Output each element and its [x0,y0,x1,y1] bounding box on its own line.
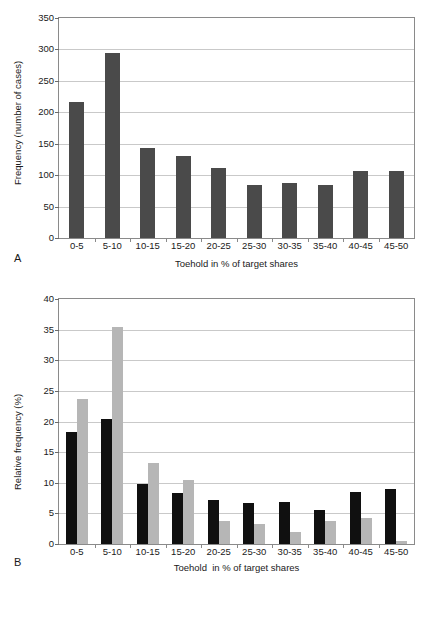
bar [314,510,325,544]
chart-b-plot-area: 05101520253035400-55-1010-1515-2020-2525… [58,298,415,545]
y-axis-tick-label: 300 [38,45,54,55]
x-axis-tick-mark [343,238,344,242]
bar [211,168,226,238]
chart-b-y-axis-title: Relative frequency (%) [12,394,23,490]
y-axis-tick-label: 200 [38,108,54,118]
y-axis-tick-label: 50 [43,202,54,212]
bar [112,327,123,544]
bar [148,463,159,544]
y-axis-tick-label: 20 [43,417,54,427]
panel-b-letter: B [14,556,21,568]
y-axis-tick-label: 150 [38,139,54,149]
bar [183,480,194,544]
bar [247,185,262,238]
x-axis-tick-mark [201,238,202,242]
bar [140,148,155,239]
panel-a-figure: 0501001502002503003500-55-1010-1515-2020… [0,0,433,290]
x-axis-tick-label: 0-5 [70,241,84,251]
y-axis-tick-mark [55,330,59,331]
x-axis-tick-mark [343,544,344,548]
y-axis-tick-mark [55,422,59,423]
x-axis-tick-label: 25-30 [242,241,266,251]
x-axis-tick-mark [379,544,380,548]
bar [350,492,361,544]
x-axis-tick-mark [130,544,131,548]
x-axis-tick-label: 0-5 [70,547,84,557]
y-axis-tick-label: 35 [43,325,54,335]
x-axis-tick-label: 45-50 [384,547,408,557]
bar [282,183,297,238]
chart-b-x-axis-title: Toehold in % of target shares [58,562,415,573]
x-axis-tick-label: 40-45 [349,547,373,557]
bar [389,171,404,238]
x-axis-tick-mark [237,238,238,242]
x-axis-tick-label: 5-10 [103,241,122,251]
bar [279,502,290,544]
y-axis-tick-label: 5 [49,509,54,519]
x-axis-tick-mark [166,238,167,242]
x-axis-tick-label: 45-50 [384,241,408,251]
y-axis-tick-label: 40 [43,294,54,304]
x-axis-tick-label: 5-10 [103,547,122,557]
y-axis-tick-mark [55,175,59,176]
bar [101,419,112,544]
chart-a-y-axis-title: Frequency (number of cases) [12,61,23,185]
x-axis-tick-label: 35-40 [313,241,337,251]
x-axis-tick-mark [95,238,96,242]
y-axis-tick-label: 10 [43,478,54,488]
x-axis-tick-label: 25-30 [242,547,266,557]
bar [325,521,336,544]
bar [172,493,183,544]
y-axis-tick-label: 25 [43,386,54,396]
y-axis-tick-label: 0 [49,233,54,243]
x-axis-tick-mark [95,544,96,548]
bar [353,171,368,238]
x-axis-tick-mark [166,544,167,548]
x-axis-tick-label: 20-25 [207,547,231,557]
y-axis-tick-mark [55,207,59,208]
x-axis-tick-mark [201,544,202,548]
y-axis-tick-label: 100 [38,170,54,180]
y-axis-tick-mark [55,112,59,113]
y-axis-tick-mark [55,81,59,82]
y-axis-tick-label: 30 [43,356,54,366]
x-axis-tick-label: 35-40 [313,547,337,557]
x-axis-tick-mark [272,544,273,548]
y-axis-tick-mark [55,513,59,514]
y-axis-tick-label: 350 [38,13,54,23]
x-axis-tick-label: 40-45 [349,241,373,251]
x-axis-tick-mark [272,238,273,242]
panel-b-figure: 05101520253035400-55-1010-1515-2020-2525… [0,290,433,631]
x-axis-tick-mark [130,238,131,242]
x-axis-tick-mark [308,238,309,242]
x-axis-tick-label: 30-35 [278,241,302,251]
x-axis-tick-mark [237,544,238,548]
bar [385,489,396,544]
x-axis-tick-label: 30-35 [278,547,302,557]
bar [69,102,84,238]
y-axis-tick-mark [55,299,59,300]
bar [137,484,148,544]
x-axis-tick-label: 15-20 [171,241,195,251]
bar [361,518,372,544]
y-axis-tick-label: 250 [38,76,54,86]
bar [396,541,407,544]
panel-a-letter: A [14,252,21,264]
bar [318,185,333,238]
bar [290,532,301,544]
bar [219,521,230,544]
y-axis-tick-mark [55,452,59,453]
bar [208,500,219,544]
chart-a-x-axis-title: Toehold in % of target shares [58,258,415,269]
x-axis-tick-label: 15-20 [171,547,195,557]
y-axis-tick-mark [55,391,59,392]
bar [243,503,254,544]
y-axis-tick-mark [55,483,59,484]
y-axis-tick-mark [55,144,59,145]
bar [66,432,77,544]
x-axis-tick-label: 10-15 [136,241,160,251]
bar [176,156,191,238]
x-axis-tick-label: 10-15 [136,547,160,557]
y-axis-tick-label: 0 [49,539,54,549]
y-axis-tick-label: 15 [43,447,54,457]
